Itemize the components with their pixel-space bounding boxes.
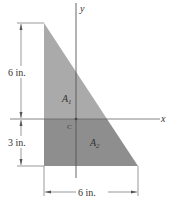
triangle-centroid-diagram: y x C A1 A2 6 in. 3 in. 6 in. xyxy=(0,0,170,200)
region-a1 xyxy=(44,23,107,119)
dim-label-bottom-width: 6 in. xyxy=(78,187,96,198)
dim-label-upper-height: 6 in. xyxy=(8,67,26,78)
dim-label-lower-height: 3 in. xyxy=(8,137,26,148)
y-axis-label: y xyxy=(79,3,85,14)
centroid-label: C xyxy=(67,123,72,131)
x-axis-label: x xyxy=(160,113,166,124)
centroid-point xyxy=(75,118,78,121)
